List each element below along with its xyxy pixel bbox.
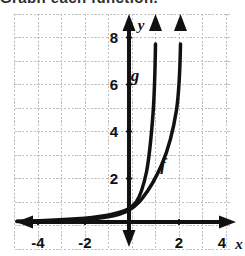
- curve-f-arrowhead: [174, 14, 187, 31]
- curve-label-f: f: [160, 155, 168, 174]
- exponential-functions-graph-figure: Graph each function.: [0, 0, 245, 256]
- curve-label-g: g: [130, 66, 140, 85]
- x-tick-label-minus-4: -4: [31, 234, 45, 251]
- curve-g: [17, 14, 162, 221]
- y-tick-label-8: 8: [110, 29, 118, 46]
- y-axis-top-arrowhead: [123, 14, 136, 31]
- x-tick-label-minus-2: -2: [78, 234, 91, 251]
- y-tick-label-6: 6: [110, 76, 118, 93]
- y-axis-label: y: [136, 17, 145, 33]
- coordinate-plane: 8 6 4 2 -4 -2 2 4 x y g f: [0, 0, 245, 256]
- x-tick-label-2: 2: [175, 234, 183, 251]
- y-tick-label-4: 4: [110, 123, 119, 140]
- x-tick-label-4: 4: [218, 234, 227, 251]
- x-axis-right-arrowhead: [219, 216, 236, 229]
- curve-g-arrowhead: [149, 14, 162, 31]
- y-tick-label-2: 2: [110, 170, 118, 187]
- x-axis-label: x: [234, 236, 243, 252]
- curve-f: [17, 14, 187, 222]
- y-axis-bottom-arrowhead: [123, 230, 136, 247]
